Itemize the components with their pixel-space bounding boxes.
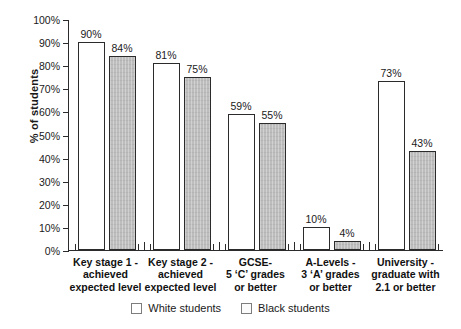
y-axis-tick	[63, 89, 69, 90]
legend-label-white-students: White students	[148, 303, 221, 314]
y-axis-tick	[63, 20, 69, 21]
bar-white-students[interactable]	[303, 227, 330, 250]
x-axis-minor-tick	[363, 244, 364, 250]
bar-value-label: 43%	[403, 138, 442, 149]
bar-black-students[interactable]	[184, 77, 211, 250]
bar-value-label: 75%	[178, 64, 217, 75]
legend-item-white-students[interactable]: White students	[131, 303, 221, 314]
y-axis-tick	[63, 136, 69, 137]
x-axis-minor-tick	[225, 244, 226, 250]
y-axis-tick	[63, 182, 69, 183]
y-axis-tick-label: 100%	[22, 15, 60, 26]
bar-white-students[interactable]	[378, 81, 405, 250]
y-axis-tick-label: 90%	[22, 38, 60, 49]
legend-item-black-students[interactable]: Black students	[241, 303, 330, 314]
legend-swatch-grey-icon	[241, 303, 252, 314]
x-axis-group-separator	[369, 242, 370, 250]
bar-value-label: 84%	[103, 43, 142, 54]
y-axis-tick-label: 30%	[22, 176, 60, 187]
y-axis-tick	[63, 43, 69, 44]
x-axis-minor-tick	[150, 244, 151, 250]
bar-value-label: 4%	[328, 228, 367, 239]
y-axis-tick-label: 20%	[22, 200, 60, 211]
y-axis-tick	[63, 112, 69, 113]
bar-white-students[interactable]	[78, 42, 105, 250]
bar-value-label: 81%	[147, 50, 186, 61]
y-axis-tick-label: 40%	[22, 153, 60, 164]
x-axis-group-separator	[144, 242, 145, 250]
y-axis-tick-label: 80%	[22, 61, 60, 72]
x-axis-minor-tick	[375, 244, 376, 250]
x-axis-group-separator	[294, 242, 295, 250]
chart-legend: White students Black students	[0, 303, 461, 314]
y-axis-tick	[63, 251, 69, 252]
x-axis-group-separator	[219, 242, 220, 250]
bar-black-students[interactable]	[109, 56, 136, 250]
y-axis-tick-label: 10%	[22, 223, 60, 234]
x-axis-minor-tick	[75, 244, 76, 250]
x-axis-minor-tick	[138, 244, 139, 250]
legend-swatch-white-icon	[131, 303, 142, 314]
y-axis-tick-label: 60%	[22, 107, 60, 118]
bar-black-students[interactable]	[334, 241, 361, 250]
y-axis-tick	[63, 228, 69, 229]
x-axis-minor-tick	[288, 244, 289, 250]
y-axis-tick	[63, 205, 69, 206]
bar-black-students[interactable]	[259, 123, 286, 250]
bar-white-students[interactable]	[153, 63, 180, 250]
bar-value-label: 10%	[297, 214, 336, 225]
y-axis-tick	[63, 159, 69, 160]
plot-area: 90%84%81%75%59%55%10%4%73%43%	[68, 20, 443, 251]
bar-black-students[interactable]	[409, 151, 436, 250]
x-axis-minor-tick	[213, 244, 214, 250]
x-axis-minor-tick	[300, 244, 301, 250]
y-axis-tick-label: 0%	[22, 246, 60, 257]
legend-label-black-students: Black students	[258, 303, 330, 314]
bar-chart: % of students 90%84%81%75%59%55%10%4%73%…	[0, 0, 461, 329]
bar-value-label: 73%	[372, 68, 411, 79]
y-axis-tick-label: 70%	[22, 84, 60, 95]
x-axis-label-5: University - graduate with 2.1 or better	[360, 256, 451, 293]
y-axis-tick	[63, 66, 69, 67]
bar-white-students[interactable]	[228, 114, 255, 250]
bar-value-label: 55%	[253, 110, 292, 121]
bar-value-label: 90%	[72, 29, 111, 40]
y-axis-tick-label: 50%	[22, 130, 60, 141]
x-axis-minor-tick	[438, 244, 439, 250]
